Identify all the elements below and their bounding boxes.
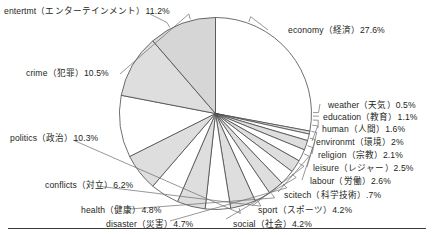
pie-chart-figure: entertmt（エンターテインメント）11.2% economy（経済）27.… <box>0 0 434 235</box>
bottom-divider <box>8 228 426 229</box>
slice-label-entertmt: entertmt（エンターテインメント）11.2% <box>4 6 170 16</box>
leader-line <box>150 14 170 27</box>
slice-label-economy: economy（経済）27.6% <box>288 25 385 35</box>
pie-slice-group <box>119 18 311 210</box>
slice-label-environmt: environmt（環境）2% <box>316 137 404 147</box>
slice-label-health: health（健康）4.8% <box>81 205 161 215</box>
slice-label-leisure: leisure（レジャー）2.5% <box>313 163 414 173</box>
slice-label-sport: sport（スポーツ）4.2% <box>258 205 352 215</box>
slice-label-weather: weather（天気）0.5% <box>328 100 416 110</box>
slice-label-labour: labour（労働）2.6% <box>310 176 391 186</box>
slice-label-crime: crime（犯罪）10.5% <box>26 68 109 78</box>
leader-line <box>313 104 320 113</box>
slice-label-politics: politics（政治）10.3% <box>10 133 98 143</box>
slice-label-education: education（教育）1.1% <box>323 112 418 122</box>
slice-label-conflicts: conflicts（対立）6.2% <box>45 180 133 190</box>
slice-label-human: human（人間）1.6% <box>322 124 405 134</box>
slice-label-religion: religion（宗教）2.1% <box>318 150 403 160</box>
slice-label-scitech: scitech（科学技術）.7% <box>284 190 381 200</box>
